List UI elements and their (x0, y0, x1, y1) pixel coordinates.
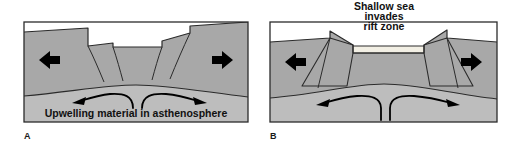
panel-a: Upwelling material in asthenosphere (24, 22, 248, 122)
panel-a-caption: Upwelling material in asthenosphere (45, 107, 228, 119)
panel-b-label: B (270, 131, 277, 141)
panel-b-title-line-3: rift zone (364, 20, 405, 32)
panel-b-shallow-sea (353, 46, 424, 53)
panel-a-label: A (24, 131, 31, 141)
panel-b: Shallow sea invades rift zone (270, 0, 497, 122)
diagram-canvas: Upwelling material in asthenosphere (0, 0, 517, 159)
rifting-diagram: Upwelling material in asthenosphere (0, 0, 517, 159)
